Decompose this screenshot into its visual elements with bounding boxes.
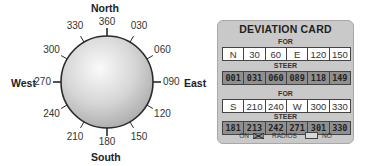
for-cell: 120 [307, 48, 328, 60]
card-title: DEVIATION CARD [218, 23, 353, 35]
for-label-2: FOR [218, 90, 353, 97]
steer-cell: 031 [243, 72, 264, 84]
radios-label: RADIOS [272, 132, 297, 139]
heading-label: 150 [131, 131, 148, 142]
deviation-card: DEVIATION CARD FOR N 30 60 E 120 150 STE… [217, 20, 354, 144]
for-cell: 60 [265, 48, 286, 60]
heading-label: 180 [99, 136, 116, 147]
east-label: East [184, 77, 206, 89]
for-cell: 150 [329, 48, 350, 60]
for-cell: 330 [329, 100, 350, 112]
steer-label-1: STEER [218, 62, 353, 69]
west-label: West [11, 77, 36, 89]
compass-diagram: 360030060090120150180210240270300330 Nor… [0, 0, 215, 166]
steer-label-2: STEER [218, 113, 353, 120]
heading-label: 360 [99, 16, 116, 27]
for-cell: 300 [307, 100, 328, 112]
south-label: South [91, 151, 121, 163]
for-cell: S [223, 100, 243, 112]
no-label: NO [322, 132, 332, 139]
heading-label: 240 [43, 108, 60, 119]
for-cell: 210 [243, 100, 264, 112]
steer-cell: 149 [329, 72, 350, 84]
heading-label: 120 [154, 108, 171, 119]
steer-cell: 060 [265, 72, 286, 84]
heading-label: 300 [43, 44, 60, 55]
heading-label: 060 [154, 44, 171, 55]
steer-cell: 001 [223, 72, 243, 84]
steer-cell: 089 [286, 72, 307, 84]
radios-on-icon [253, 133, 264, 139]
heading-label: 270 [34, 76, 51, 87]
for-row-1: N 30 60 E 120 150 [222, 47, 351, 61]
for-cell: 240 [265, 100, 286, 112]
heading-label: 030 [131, 20, 148, 31]
radios-off-icon [305, 132, 318, 139]
compass-circle [61, 36, 153, 128]
for-cell: N [223, 48, 243, 60]
for-cell: E [286, 48, 307, 60]
heading-label: 210 [67, 131, 84, 142]
for-cell: W [286, 100, 307, 112]
steer-cell: 118 [307, 72, 328, 84]
for-cell: 30 [243, 48, 264, 60]
heading-label: 090 [163, 76, 180, 87]
on-label: ON [239, 132, 249, 139]
for-label-1: FOR [218, 38, 353, 45]
for-row-2: S 210 240 W 300 330 [222, 99, 351, 113]
north-label: North [91, 2, 119, 14]
steer-row-1: 001 031 060 089 118 149 [222, 71, 351, 85]
heading-label: 330 [67, 20, 84, 31]
radios-legend: ON RADIOS NO [218, 132, 353, 139]
